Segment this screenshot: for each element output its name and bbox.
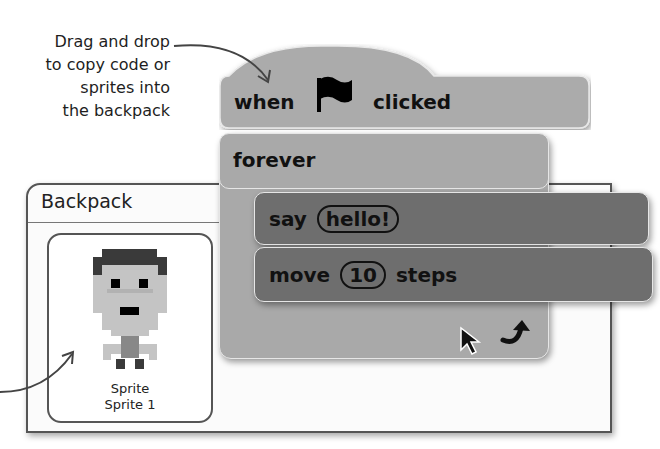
annotation-arrow-to-code-icon <box>0 0 660 449</box>
